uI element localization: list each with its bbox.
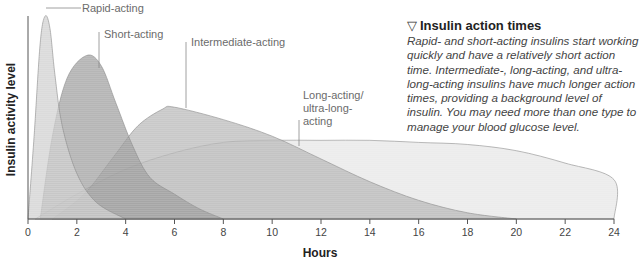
info-panel-body: Rapid- and short-acting insulins start w… (407, 34, 639, 134)
triangle-down-icon: ▽ (407, 18, 417, 33)
y-axis-title: Insulin activity level (4, 63, 18, 176)
x-tick-label: 22 (559, 226, 571, 238)
info-panel-title: ▽Insulin action times (407, 18, 639, 34)
annotation-label: Long-acting/ (303, 89, 364, 101)
annotation-label: Rapid-acting (82, 2, 144, 14)
x-tick-label: 20 (510, 226, 522, 238)
x-tick-label: 14 (364, 226, 376, 238)
x-tick-label: 6 (172, 226, 178, 238)
x-tick-label: 0 (25, 226, 31, 238)
x-tick-label: 10 (266, 226, 278, 238)
x-tick-label: 8 (220, 226, 226, 238)
annotation-label: Intermediate-acting (191, 36, 285, 48)
x-tick-label: 18 (462, 226, 474, 238)
annotation-label: acting (303, 115, 332, 127)
info-title-text: Insulin action times (420, 18, 541, 33)
annotation-label: Short-acting (104, 28, 163, 40)
x-tick-label: 4 (123, 226, 129, 238)
info-panel: ▽Insulin action times Rapid- and short-a… (407, 18, 639, 134)
x-tick-label: 16 (413, 226, 425, 238)
annotation-label: ultra-long- (303, 102, 353, 114)
x-axis-title: Hours (303, 246, 338, 260)
x-tick-label: 24 (608, 226, 620, 238)
x-tick-label: 12 (315, 226, 327, 238)
x-tick-label: 2 (74, 226, 80, 238)
